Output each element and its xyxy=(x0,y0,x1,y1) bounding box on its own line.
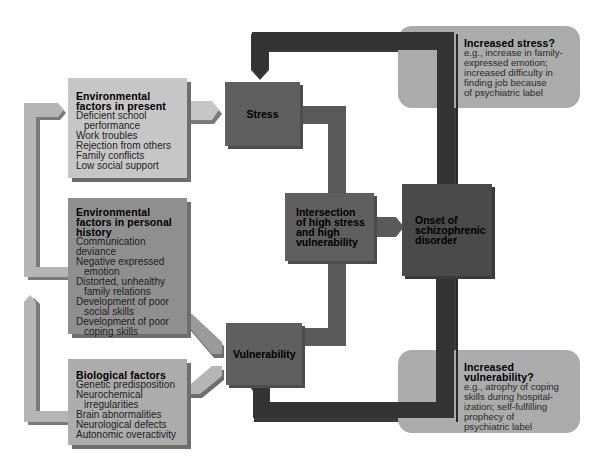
stress-node: Stress xyxy=(225,82,300,146)
present-to-stress-arrow xyxy=(187,101,222,124)
bio-to-vulnerability-arrow xyxy=(186,366,224,398)
intersection-label: vulnerability xyxy=(296,237,365,247)
vulnerability-to-intersection-connector xyxy=(300,258,346,346)
environmental-factors-present-box: Environmental factors in present Deficie… xyxy=(68,78,187,178)
stress-label: Stress xyxy=(246,109,278,119)
onset-node: Onset of schizophrenic disorder xyxy=(402,184,492,276)
intersection-node: Intersection of high stress and high vul… xyxy=(285,193,374,261)
increased-vulnerability-feedback-box: Increased vulnerability? e.g., atrophy o… xyxy=(398,350,580,433)
feedback-vulnerability-desc: psychiatric label xyxy=(464,422,576,432)
onset-label: disorder xyxy=(415,235,486,245)
history-item: coping skills xyxy=(76,327,179,337)
history-to-present-arrow xyxy=(24,103,70,280)
history-item: Communication deviance xyxy=(76,237,179,257)
present-item: Low social support xyxy=(76,161,179,171)
feedback-stress-desc: of psychiatric label xyxy=(464,88,576,98)
increased-stress-feedback-box: Increased stress? e.g., increase in fami… xyxy=(398,26,580,108)
stress-to-intersection-connector xyxy=(298,106,346,196)
schizophrenia-diathesis-stress-diagram: Increased stress? e.g., increase in fami… xyxy=(0,0,606,456)
bio-item: Autonomic overactivity xyxy=(76,430,179,440)
intersection-to-onset-arrow xyxy=(372,217,404,237)
vulnerability-node: Vulnerability xyxy=(226,323,302,385)
environmental-factors-history-box: Environmental factors in personal histor… xyxy=(68,198,187,334)
biological-factors-box: Biological factors Genetic predispositio… xyxy=(68,359,187,445)
vulnerability-label: Vulnerability xyxy=(233,349,296,359)
bio-to-history-arrow xyxy=(24,295,70,425)
